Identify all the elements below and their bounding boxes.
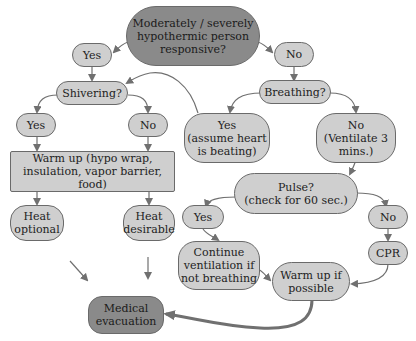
edge-warm-evac (166, 300, 312, 328)
node-breathing-yes: Yes (assume heart is beating) (184, 113, 270, 163)
edge-pulseyes-continue (203, 229, 218, 240)
node-yes-responsive: Yes (72, 43, 112, 67)
edge-breathing-no (330, 93, 356, 112)
hypothermia-flowchart: Moderately / severely hypothermic person… (0, 0, 416, 341)
edge-breathing-yes (230, 93, 262, 112)
node-heat-desirable: Heat desirable (123, 205, 175, 241)
node-no-responsive: No (274, 42, 314, 67)
edge-root-no (258, 42, 272, 52)
node-pulse-no: No (368, 205, 408, 229)
edge-breathyes-shivering (127, 73, 198, 113)
node-pulse-yes: Yes (182, 205, 224, 229)
edge-shivering-no (128, 95, 148, 112)
node-pulse: Pulse? (check for 60 sec.) (234, 173, 358, 214)
node-warm-up: Warm up (hypo wrap, insulation, vapor ba… (10, 151, 175, 192)
edge-root-yes (114, 42, 128, 52)
node-shivering-yes: Yes (16, 113, 56, 137)
edge-cpr-warm (352, 264, 388, 284)
edge-heatopt-evac (70, 261, 87, 280)
node-root-question: Moderately / severely hypothermic person… (126, 6, 260, 66)
node-shivering-no: No (128, 113, 168, 137)
node-cpr: CPR (368, 241, 408, 265)
node-breathing-no: No (Ventilate 3 mins.) (316, 113, 396, 163)
node-warm-up-if-possible: Warm up if possible (272, 262, 350, 301)
node-continue-ventilation: Continue ventilation if not breathing (178, 241, 260, 290)
edge-shivering-yes (37, 95, 58, 112)
node-shivering: Shivering? (56, 81, 128, 105)
node-medical-evacuation: Medical evacuation (88, 296, 164, 334)
node-heat-optional: Heat optional (10, 205, 64, 241)
node-breathing: Breathing? (259, 80, 331, 104)
